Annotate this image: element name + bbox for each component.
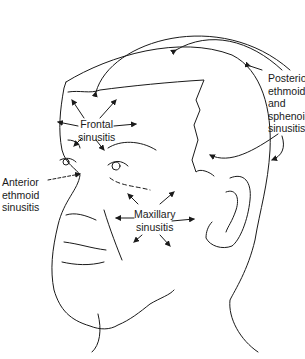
sinusitis-pain-diagram: Frontal sinusitis Anterior ethmoid sinus… — [0, 0, 305, 359]
label-posterior-ethmoid-sphenoid-sinusitis: Posterior ethmoid and sphenoid sinusitis — [268, 72, 305, 135]
head-outline — [52, 47, 270, 352]
head-drawing — [0, 0, 305, 359]
label-anterior-ethmoid-sinusitis: Anterior ethmoid sinusitis — [2, 176, 39, 214]
label-frontal-sinusitis: Frontal sinusitis — [78, 118, 115, 143]
label-maxillary-sinusitis: Maxillary sinusitis — [134, 208, 175, 233]
